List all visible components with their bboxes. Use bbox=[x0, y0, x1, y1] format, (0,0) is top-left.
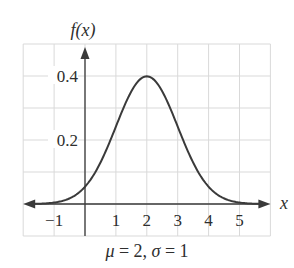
x-tick-label: −1 bbox=[45, 211, 63, 230]
caption-sigma-value: = 1 bbox=[160, 241, 188, 261]
tick-labels: −1123450.20.4 bbox=[45, 66, 244, 230]
normal-distribution-chart: −1123450.20.4 x f(x) bbox=[0, 0, 294, 268]
y-axis-arrow-up-icon bbox=[81, 47, 90, 59]
y-tick-label: 0.2 bbox=[57, 131, 78, 150]
x-tick-label: 3 bbox=[173, 211, 182, 230]
y-axis-title: f(x) bbox=[71, 20, 96, 41]
x-tick-label: 1 bbox=[112, 211, 121, 230]
x-axis-title: x bbox=[279, 193, 288, 213]
x-tick-label: 2 bbox=[143, 211, 152, 230]
y-tick-label: 0.4 bbox=[57, 67, 79, 86]
x-tick-label: 5 bbox=[235, 211, 244, 230]
caption-mu-value: = 2, bbox=[114, 241, 151, 261]
x-tick-label: 4 bbox=[204, 211, 213, 230]
chart-caption: μ = 2, σ = 1 bbox=[0, 241, 294, 262]
